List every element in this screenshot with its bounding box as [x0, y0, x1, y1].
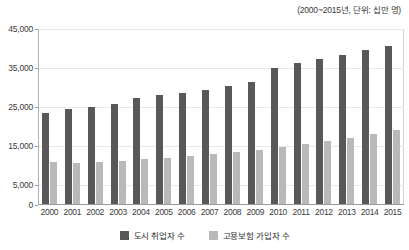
x-tick-label: 2014 [361, 207, 379, 217]
bar [339, 55, 346, 204]
bar-group [38, 28, 61, 204]
bar-group [244, 28, 267, 204]
bar-group [84, 28, 107, 204]
x-tick-label: 2008 [224, 207, 242, 217]
bar [210, 154, 217, 204]
legend-label: 고용보험 가입자 수 [223, 229, 290, 241]
bar [385, 46, 392, 204]
x-tick-label: 2005 [155, 207, 173, 217]
y-tick-mark [35, 205, 38, 206]
bar [225, 86, 232, 204]
bar [65, 109, 72, 204]
bar-group [381, 28, 404, 204]
bar [73, 163, 80, 204]
bar [370, 134, 377, 204]
y-tick-label: 25,000 [8, 102, 33, 112]
y-tick-label: 0 [28, 200, 33, 210]
bar-group [313, 28, 336, 204]
bar-group [107, 28, 130, 204]
bar [256, 150, 263, 204]
bar [119, 161, 126, 204]
bar [156, 95, 163, 204]
bar [88, 107, 95, 204]
x-tick-label: 2004 [132, 207, 150, 217]
bar [294, 63, 301, 204]
bar [271, 68, 278, 204]
bar [141, 159, 148, 204]
bar [324, 141, 331, 204]
legend-swatch [120, 231, 129, 240]
x-tick-label: 2006 [178, 207, 196, 217]
x-tick-label: 2010 [269, 207, 287, 217]
y-tick-label: 45,000 [8, 24, 33, 34]
bar [133, 98, 140, 204]
y-tick-label: 15,000 [8, 141, 33, 151]
bar-group [198, 28, 221, 204]
legend-label: 도시 취업자 수 [134, 229, 185, 241]
chart-unit-note: (2000~2015년, 단위: 십만 명) [297, 3, 401, 15]
bar [362, 50, 369, 204]
x-tick-label: 2012 [315, 207, 333, 217]
bar [202, 90, 209, 204]
bar [96, 162, 103, 204]
bar [393, 130, 400, 204]
y-tick-label: 35,000 [8, 63, 33, 73]
x-tick-label: 2013 [338, 207, 356, 217]
bar-group [290, 28, 313, 204]
legend-item[interactable]: 도시 취업자 수 [120, 229, 185, 241]
bar [347, 138, 354, 204]
bar-group [175, 28, 198, 204]
bar-group [335, 28, 358, 204]
bar-group [221, 28, 244, 204]
x-tick-label: 2015 [384, 207, 402, 217]
bar [233, 152, 240, 204]
bar-group [61, 28, 84, 204]
x-tick-label: 2003 [109, 207, 127, 217]
bar-group [358, 28, 381, 204]
bar [316, 59, 323, 204]
bar [302, 144, 309, 204]
bar [187, 156, 194, 204]
x-tick-label: 2009 [246, 207, 264, 217]
x-tick-label: 2007 [201, 207, 219, 217]
x-axis-line [38, 204, 404, 205]
bar [111, 104, 118, 205]
legend-item[interactable]: 고용보험 가입자 수 [209, 229, 290, 241]
bar [164, 158, 171, 204]
legend-swatch [209, 231, 218, 240]
bar-group [130, 28, 153, 204]
plot-area: 05,00015,00025,00035,00045,000 [38, 29, 404, 205]
bar-group [267, 28, 290, 204]
x-tick-label: 2001 [63, 207, 81, 217]
bar-group [152, 28, 175, 204]
bar [179, 93, 186, 204]
x-tick-label: 2000 [41, 207, 59, 217]
y-tick-label: 5,000 [13, 180, 33, 190]
bar [50, 162, 57, 204]
bar-chart-figure: (2000~2015년, 단위: 십만 명) 05,00015,00025,00… [0, 0, 409, 250]
chart-legend: 도시 취업자 수고용보험 가입자 수 [0, 229, 409, 241]
bar [248, 82, 255, 204]
bar [42, 113, 49, 204]
x-tick-label: 2002 [86, 207, 104, 217]
x-tick-label: 2011 [293, 207, 310, 217]
bar [279, 147, 286, 204]
